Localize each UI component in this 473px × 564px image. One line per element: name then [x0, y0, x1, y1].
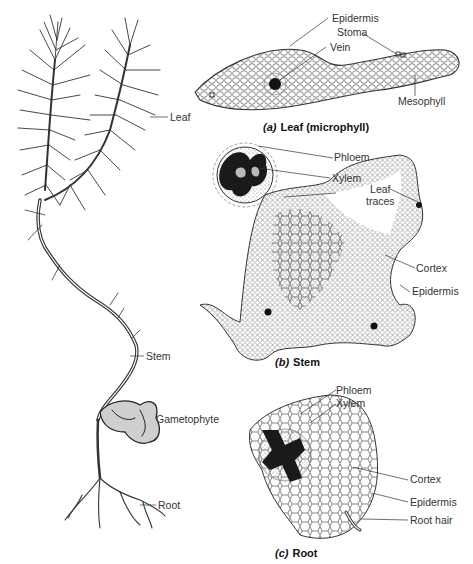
label-stem-phloem: Phloem — [334, 152, 370, 163]
label-leaf: Leaf — [170, 112, 190, 123]
label-stoma: Stoma — [337, 27, 367, 38]
label-mesophyll: Mesophyll — [398, 96, 445, 107]
label-root-xylem: Xylem — [336, 398, 365, 409]
label-root-epidermis: Epidermis — [410, 497, 457, 508]
label-stem-epidermis: Epidermis — [412, 286, 459, 297]
figure-canvas — [0, 0, 473, 564]
gametophyte-shape — [100, 401, 159, 443]
label-root: Root — [158, 500, 180, 511]
label-gametophyte: Gametophyte — [156, 414, 219, 425]
root-cross-section — [250, 390, 409, 538]
label-stem-xylem: Xylem — [332, 173, 361, 184]
whole-plant-illustration — [18, 15, 165, 528]
stem-cross-section — [200, 143, 423, 360]
label-stem: Stem — [146, 351, 171, 362]
label-root-hair: Root hair — [410, 515, 453, 526]
caption-leaf: (a)Leaf (microphyll) — [263, 122, 369, 133]
caption-root: (c)Root — [275, 548, 318, 559]
label-root-phloem: Phloem — [336, 385, 372, 396]
caption-stem: (b)Stem — [275, 357, 320, 368]
label-leaf-epidermis: Epidermis — [332, 13, 379, 24]
label-leaf-traces: Leaf traces — [366, 183, 395, 207]
label-vein: Vein — [330, 42, 350, 53]
label-stem-cortex: Cortex — [416, 263, 447, 274]
plant-leader-lines — [130, 117, 168, 505]
label-root-cortex: Cortex — [410, 474, 441, 485]
